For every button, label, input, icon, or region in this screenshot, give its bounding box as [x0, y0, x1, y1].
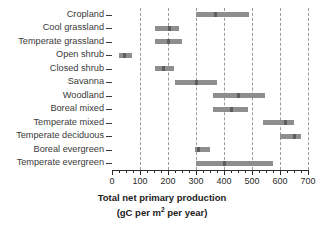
- y-tick-woodland: [106, 96, 112, 97]
- median-marker-temperate-grassland: [167, 39, 170, 44]
- x-minor-tick-525: [259, 170, 260, 173]
- x-minor-tick-425: [231, 170, 232, 173]
- plot-area: [112, 8, 308, 170]
- y-tick-closed-shrub: [106, 69, 112, 70]
- gridline-100: [140, 8, 141, 170]
- gridline-700: [308, 8, 309, 170]
- category-label-temperate-grassland: Temperate grassland: [18, 37, 104, 46]
- y-tick-temperate-evergreen: [106, 163, 112, 164]
- y-tick-temperate-deciduous: [106, 136, 112, 137]
- median-marker-boreal-evergreen: [197, 147, 200, 152]
- x-minor-tick-350: [210, 170, 211, 173]
- x-major-tick-700: [308, 170, 309, 175]
- x-minor-tick-550: [266, 170, 267, 173]
- median-marker-cropland: [214, 12, 217, 17]
- x-tick-label-100: 100: [132, 176, 147, 186]
- category-label-savanna: Savanna: [68, 77, 104, 86]
- category-label-boreal-evergreen: Boreal evergreen: [34, 145, 104, 154]
- x-minor-tick-575: [273, 170, 274, 173]
- x-axis-title: Total net primary production (gC per m2 …: [0, 192, 324, 219]
- gridline-300: [196, 8, 197, 170]
- y-tick-cool-grassland: [106, 28, 112, 29]
- x-tick-label-400: 400: [216, 176, 231, 186]
- category-label-temperate-mixed: Temperate mixed: [34, 118, 104, 127]
- y-tick-temperate-grassland: [106, 42, 112, 43]
- gridline-600: [280, 8, 281, 170]
- x-tick-label-500: 500: [244, 176, 259, 186]
- y-tick-temperate-mixed: [106, 123, 112, 124]
- x-tick-label-600: 600: [272, 176, 287, 186]
- x-axis-units-pre: (gC per m: [117, 207, 161, 218]
- x-tick-label-700: 700: [300, 176, 315, 186]
- x-major-tick-300: [196, 170, 197, 175]
- x-axis-title-line2: (gC per m2 per year): [0, 204, 324, 219]
- category-label-woodland: Woodland: [63, 91, 104, 100]
- y-tick-boreal-mixed: [106, 109, 112, 110]
- x-minor-tick-375: [217, 170, 218, 173]
- x-minor-tick-75: [133, 170, 134, 173]
- median-marker-temperate-evergreen: [223, 161, 226, 166]
- category-label-column: CroplandCool grasslandTemperate grasslan…: [0, 0, 104, 170]
- category-label-cropland: Cropland: [67, 10, 104, 19]
- x-minor-tick-650: [294, 170, 295, 173]
- y-tick-open-shrub: [106, 55, 112, 56]
- x-minor-tick-50: [126, 170, 127, 173]
- median-marker-savanna: [195, 80, 198, 85]
- x-axis-units-post: per year): [165, 207, 208, 218]
- range-bar-cropland: [196, 12, 249, 17]
- category-label-closed-shrub: Closed shrub: [50, 64, 104, 73]
- y-tick-boreal-evergreen: [106, 150, 112, 151]
- x-minor-tick-175: [161, 170, 162, 173]
- range-bar-temperate-mixed: [263, 120, 294, 125]
- median-marker-temperate-mixed: [284, 120, 287, 125]
- x-minor-tick-125: [147, 170, 148, 173]
- median-marker-boreal-mixed: [230, 107, 233, 112]
- x-minor-tick-325: [203, 170, 204, 173]
- x-major-tick-100: [140, 170, 141, 175]
- median-marker-woodland: [237, 93, 240, 98]
- x-tick-label-200: 200: [160, 176, 175, 186]
- x-minor-tick-450: [238, 170, 239, 173]
- category-label-temperate-evergreen: Temperate evergreen: [17, 158, 104, 167]
- x-minor-tick-150: [154, 170, 155, 173]
- x-minor-tick-225: [175, 170, 176, 173]
- range-bar-temperate-deciduous: [280, 134, 301, 139]
- category-label-cool-grassland: Cool grassland: [43, 23, 104, 32]
- npp-range-chart: CroplandCool grasslandTemperate grasslan…: [0, 0, 324, 234]
- x-minor-tick-475: [245, 170, 246, 173]
- category-label-boreal-mixed: Boreal mixed: [50, 104, 104, 113]
- x-minor-tick-250: [182, 170, 183, 173]
- x-axis-title-line1: Total net primary production: [98, 192, 227, 203]
- x-major-tick-200: [168, 170, 169, 175]
- x-tick-label-0: 0: [109, 176, 114, 186]
- gridline-200: [168, 8, 169, 170]
- median-marker-temperate-deciduous: [293, 134, 296, 139]
- median-marker-open-shrub: [123, 53, 126, 58]
- x-major-tick-0: [112, 170, 113, 175]
- gridline-500: [252, 8, 253, 170]
- x-minor-tick-25: [119, 170, 120, 173]
- x-minor-tick-625: [287, 170, 288, 173]
- category-label-open-shrub: Open shrub: [56, 50, 104, 59]
- x-minor-tick-275: [189, 170, 190, 173]
- y-tick-cropland: [106, 15, 112, 16]
- y-tick-savanna: [106, 82, 112, 83]
- x-minor-tick-675: [301, 170, 302, 173]
- median-marker-cool-grassland: [168, 26, 171, 31]
- gridline-400: [224, 8, 225, 170]
- x-tick-label-300: 300: [188, 176, 203, 186]
- x-major-tick-400: [224, 170, 225, 175]
- x-major-tick-600: [280, 170, 281, 175]
- range-bar-temperate-evergreen: [196, 161, 273, 166]
- x-major-tick-500: [252, 170, 253, 175]
- category-label-temperate-deciduous: Temperate deciduous: [16, 131, 104, 140]
- median-marker-closed-shrub: [162, 66, 165, 71]
